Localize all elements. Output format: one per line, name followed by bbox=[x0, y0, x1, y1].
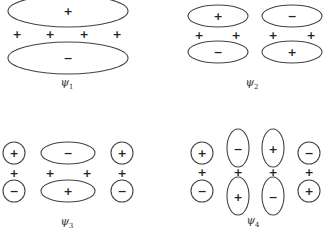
atom-sign: + bbox=[268, 29, 277, 42]
atom-sign: + bbox=[112, 28, 121, 41]
lobe-sign: − bbox=[117, 185, 126, 198]
atom-sign: + bbox=[306, 29, 315, 42]
panel-psi4: + − + − + + + + − + − + ψ4 bbox=[191, 129, 320, 229]
lobe-sign: + bbox=[117, 147, 126, 160]
lobe-sign: + bbox=[287, 46, 296, 59]
panel-psi3: + − + + + + + − + − ψ3 bbox=[3, 142, 133, 230]
lobe-sign: + bbox=[304, 185, 313, 198]
lobe-sign: + bbox=[63, 5, 72, 18]
lobe-sign: − bbox=[268, 191, 277, 204]
lobe-sign: − bbox=[213, 46, 222, 59]
lobe-sign: − bbox=[9, 185, 18, 198]
lobe-sign: − bbox=[63, 52, 72, 65]
lobe-sign: − bbox=[63, 147, 72, 160]
atom-sign: + bbox=[12, 28, 21, 41]
panel-label: ψ4 bbox=[246, 214, 260, 229]
atom-sign: + bbox=[82, 167, 91, 180]
panel-label: ψ1 bbox=[60, 76, 73, 91]
lobe-sign: + bbox=[63, 185, 72, 198]
lobe-sign: + bbox=[233, 191, 242, 204]
lobe-sign: + bbox=[9, 147, 18, 160]
panel-label: ψ3 bbox=[60, 215, 73, 230]
panel-psi2: + − + + + + − + ψ2 bbox=[188, 5, 322, 91]
atom-sign: + bbox=[194, 29, 203, 42]
lobe-sign: + bbox=[197, 147, 206, 160]
lobe-sign: − bbox=[233, 143, 242, 156]
orbital-diagram: + + + + + − ψ1 + − + + + + − + ψ2 + − + … bbox=[0, 0, 329, 234]
atom-sign: + bbox=[45, 167, 54, 180]
atom-sign: + bbox=[117, 167, 126, 180]
lobe-sign: + bbox=[268, 143, 277, 156]
atom-sign: + bbox=[304, 166, 313, 179]
lobe-sign: + bbox=[213, 10, 222, 23]
atom-sign: + bbox=[9, 167, 18, 180]
atom-sign: + bbox=[197, 166, 206, 179]
lobe-sign: − bbox=[287, 10, 296, 23]
lobe-sign: − bbox=[304, 147, 313, 160]
atom-sign: + bbox=[231, 29, 240, 42]
panel-label: ψ2 bbox=[245, 76, 258, 91]
panel-psi1: + + + + + − ψ1 bbox=[8, 0, 128, 91]
atom-sign: + bbox=[79, 28, 88, 41]
lobe-sign: − bbox=[197, 185, 206, 198]
atom-sign: + bbox=[45, 28, 54, 41]
